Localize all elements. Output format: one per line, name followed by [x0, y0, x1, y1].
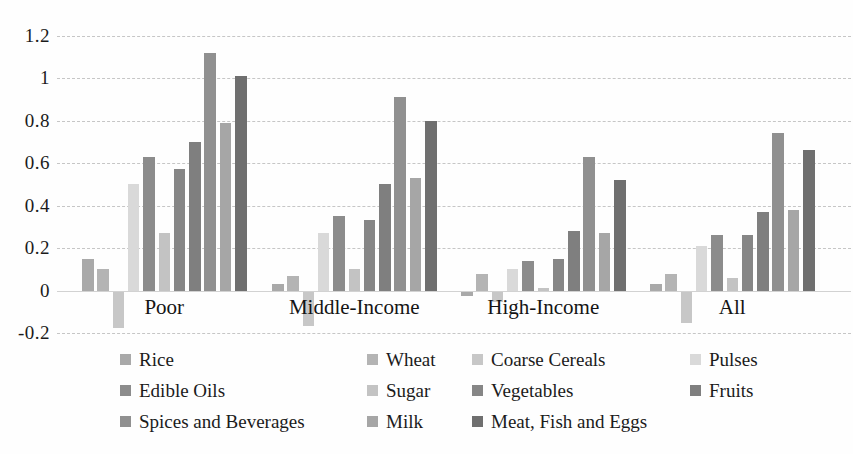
y-tick-label: 0	[4, 280, 50, 299]
bar-wheat	[287, 276, 299, 291]
bar-rice	[272, 284, 284, 290]
gridline	[57, 36, 851, 37]
bar-fruits	[189, 142, 201, 291]
bar-chart-figure: 1.210.80.60.40.20-0.2PoorMiddle-IncomeHi…	[0, 0, 853, 454]
bar-coarse-cereals	[681, 292, 693, 324]
y-tick-label: -0.2	[4, 323, 50, 342]
bar-milk	[599, 233, 611, 290]
y-tick-label: 1.2	[4, 25, 50, 44]
bar-spices-and-beverages	[204, 53, 216, 291]
bar-spices-and-beverages	[583, 157, 595, 291]
bar-wheat	[665, 274, 677, 291]
bar-edible-oils	[143, 157, 155, 291]
plot-area: 1.210.80.60.40.20-0.2PoorMiddle-IncomeHi…	[0, 0, 853, 454]
bar-milk	[788, 210, 800, 291]
bar-edible-oils	[333, 216, 345, 290]
bar-wheat	[97, 269, 109, 290]
bar-rice	[650, 284, 662, 290]
y-tick-label: 0.4	[4, 195, 50, 214]
gridline	[57, 291, 851, 292]
y-tick-label: 1	[4, 68, 50, 87]
bar-fruits	[379, 184, 391, 290]
bar-milk	[220, 123, 232, 291]
bar-sugar	[349, 269, 361, 290]
bar-edible-oils	[711, 235, 723, 290]
bar-sugar	[538, 288, 550, 290]
gridline	[57, 121, 851, 122]
category-label: High-Income	[487, 297, 599, 318]
category-label: Poor	[144, 297, 184, 318]
bar-rice	[461, 292, 473, 296]
bar-spices-and-beverages	[772, 133, 784, 290]
category-label: Middle-Income	[289, 297, 420, 318]
y-tick-label: 0.2	[4, 238, 50, 257]
gridline	[57, 163, 851, 164]
bar-sugar	[159, 233, 171, 290]
bar-milk	[410, 178, 422, 291]
bar-meat-fish-and-eggs	[803, 150, 815, 290]
bar-vegetables	[364, 220, 376, 290]
bar-pulses	[696, 246, 708, 291]
bar-edible-oils	[522, 261, 534, 291]
bar-vegetables	[174, 169, 186, 290]
bar-rice	[82, 259, 94, 291]
bar-wheat	[476, 274, 488, 291]
gridline	[57, 78, 851, 79]
bar-vegetables	[553, 259, 565, 291]
category-label: All	[719, 297, 746, 318]
y-tick-label: 0.8	[4, 110, 50, 129]
bar-meat-fish-and-eggs	[425, 121, 437, 291]
bar-meat-fish-and-eggs	[235, 76, 247, 291]
bar-pulses	[507, 269, 519, 290]
bar-sugar	[727, 278, 739, 291]
bar-pulses	[128, 184, 140, 290]
bar-fruits	[757, 212, 769, 291]
bar-fruits	[568, 231, 580, 291]
bar-meat-fish-and-eggs	[614, 180, 626, 291]
y-tick-label: 0.6	[4, 153, 50, 172]
bar-pulses	[318, 233, 330, 290]
bar-coarse-cereals	[113, 292, 125, 328]
gridline	[57, 333, 851, 334]
bar-vegetables	[742, 235, 754, 290]
bar-spices-and-beverages	[394, 97, 406, 290]
